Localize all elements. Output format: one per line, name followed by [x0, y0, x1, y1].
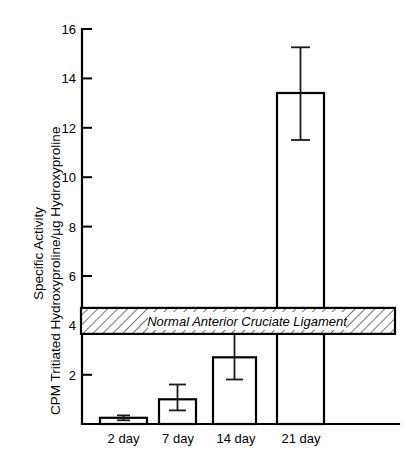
y-tick-label-14: 14: [62, 71, 76, 86]
y-tick-label-4: 4: [69, 318, 76, 333]
y-tick-label-10: 10: [62, 170, 76, 185]
chart-figure: 16 14 12 10 8 6 4 2 Specific Activity CP…: [0, 0, 420, 471]
cat-label-21-day: 21 day: [281, 431, 321, 446]
bar-21-day[interactable]: [277, 93, 324, 424]
y-axis-tick-labels: 16 14 12 10 8 6 4 2: [62, 22, 76, 383]
bar-chart-canvas: 16 14 12 10 8 6 4 2 Specific Activity CP…: [0, 0, 420, 471]
y-axis-title-line2: CPM Tritiated Hydroxyproline/µg Hydroxyp…: [48, 127, 63, 415]
y-tick-label-6: 6: [69, 269, 76, 284]
y-tick-label-2: 2: [69, 368, 76, 383]
cat-label-7-day: 7 day: [162, 431, 194, 446]
y-axis-title-line1: Specific Activity: [31, 207, 46, 300]
y-tick-label-8: 8: [69, 220, 76, 235]
cat-label-14-day: 14 day: [216, 431, 256, 446]
bars-group: [100, 93, 324, 424]
reference-band-label: Normal Anterior Cruciate Ligament: [147, 314, 348, 329]
cat-label-2-day: 2 day: [108, 431, 140, 446]
y-tick-label-16: 16: [62, 22, 76, 37]
normal-ligament-reference-band: Normal Anterior Cruciate Ligament: [81, 308, 395, 334]
y-tick-label-12: 12: [62, 121, 76, 136]
x-axis-category-labels: 2 day 7 day 14 day 21 day: [108, 431, 321, 446]
